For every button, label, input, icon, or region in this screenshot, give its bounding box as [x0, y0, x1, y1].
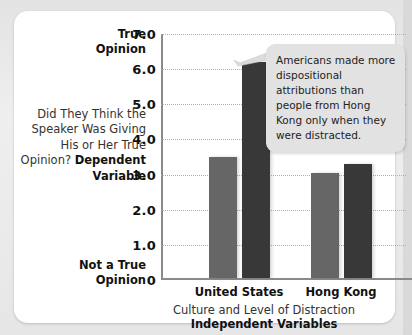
- y-tick-label: 7.0: [116, 27, 156, 42]
- y-tick-label: 5.0: [116, 97, 156, 112]
- callout-annotation: Americans made more dispositional attrib…: [266, 44, 405, 152]
- x-axis-title-bold: Independent Variables: [134, 317, 394, 331]
- figure-card: True Opinion Did They Think the Speaker …: [14, 11, 395, 323]
- x-axis-title: Culture and Level of Distraction: [134, 303, 394, 317]
- y-tick-label: 2.0: [116, 202, 156, 217]
- y-tick-label: 1.0: [116, 237, 156, 252]
- bar-united-states-not-distracted: [209, 157, 237, 278]
- gridline: [161, 34, 406, 35]
- bar-hong-kong-distracted: [344, 164, 372, 278]
- y-axis-tick-labels: 7.06.05.04.03.02.01.00: [113, 34, 156, 280]
- x-axis-line: [161, 278, 412, 280]
- bar-hong-kong-not-distracted: [311, 173, 339, 278]
- y-tick-label: 3.0: [116, 167, 156, 182]
- y-axis-line: [161, 34, 163, 280]
- x-category-label-hong-kong: Hong Kong: [281, 285, 401, 299]
- y-tick-label: 6.0: [116, 62, 156, 77]
- bar-chart-figure: True Opinion Did They Think the Speaker …: [14, 11, 395, 323]
- y-tick-label: 0: [116, 273, 156, 288]
- y-tick-label: 4.0: [116, 132, 156, 147]
